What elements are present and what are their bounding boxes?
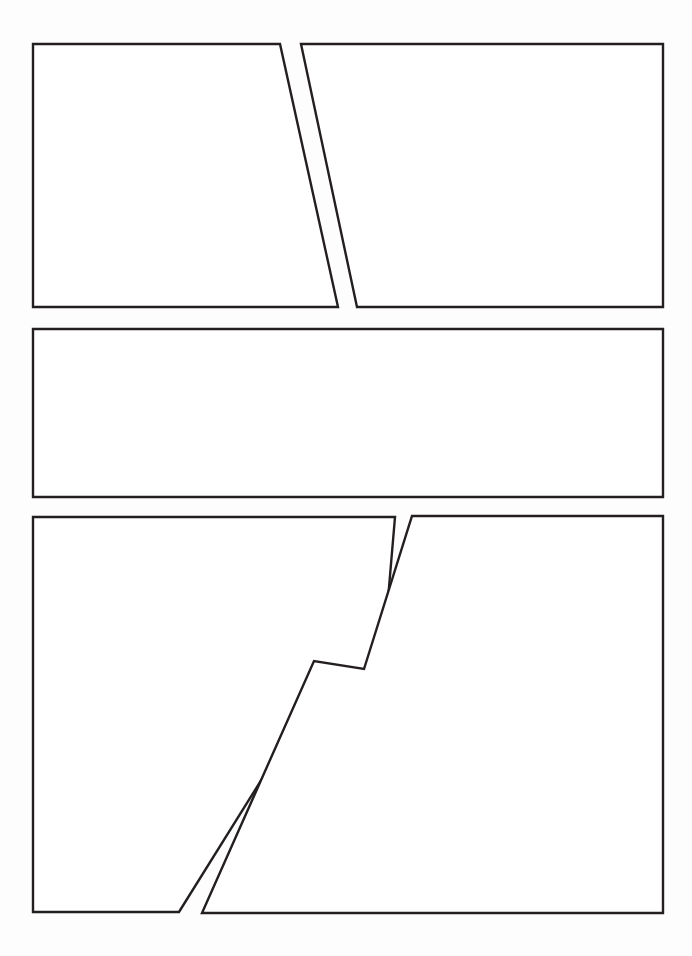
comic-page: Comic Page Layout Template xyxy=(0,0,692,956)
panel-3[interactable] xyxy=(33,329,663,497)
panel-2[interactable] xyxy=(301,44,663,307)
page-canvas xyxy=(0,0,692,956)
